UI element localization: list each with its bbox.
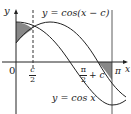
curve-label-cos-x-minus-c: y = cos(x − c) xyxy=(42,8,109,18)
y-axis-label: y xyxy=(4,6,10,16)
frac-den: 2 xyxy=(30,76,35,84)
origin-label: 0 xyxy=(9,66,15,76)
tick-label-pi-half-plus-c: π 2 + c xyxy=(80,66,104,84)
frac-num: c xyxy=(30,66,34,74)
curve-label-cos-x: y = cos x xyxy=(52,93,96,103)
y-axis-arrow-icon xyxy=(14,9,18,14)
x-axis-label: x xyxy=(125,65,130,74)
curve-cos-x-minus-c xyxy=(16,22,126,97)
frac-den: 2 xyxy=(81,76,86,84)
figure: y y = cos(x − c) y = cos x 0 x π c 2 π 2… xyxy=(0,0,131,114)
frac-num: π xyxy=(81,66,86,74)
tick-label-c-half: c 2 xyxy=(29,66,36,84)
tick-label-pi: π xyxy=(115,67,121,76)
plus-c-text: + c xyxy=(89,71,104,80)
